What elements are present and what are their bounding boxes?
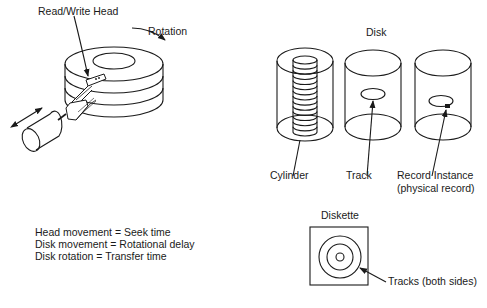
track-label: Track: [346, 169, 372, 181]
cylinder-platter-edge: [293, 96, 317, 100]
read-write-head-label: Read/Write Head: [38, 5, 118, 17]
spindle-hole: [93, 53, 135, 69]
cylinder-platter-edge: [293, 91, 317, 95]
cylinder-platter-edge: [293, 86, 317, 90]
cylinder-stack-top: [293, 56, 317, 64]
record-instance-sublabel: (physical record): [397, 182, 475, 194]
cylinder-platter-edge: [293, 127, 317, 131]
record-marker: [445, 104, 450, 108]
equation-seek-time: Head movement = Seek time: [35, 226, 171, 238]
cylinder-platter-edge: [293, 101, 317, 105]
cylinder-platter-edge: [293, 106, 317, 110]
platter-top: [65, 47, 163, 81]
read-write-head-pointer: [74, 16, 88, 76]
tracks-both-sides-label: Tracks (both sides): [388, 275, 477, 287]
cylinder-platter-edge: [293, 122, 317, 126]
cylinder-figure: [277, 48, 333, 141]
cylinder-platter-edge: [293, 75, 317, 79]
track-ellipse: [361, 89, 385, 100]
track-pointer: [367, 101, 373, 176]
cylinder-label: Cylinder: [270, 169, 309, 181]
disk-title: Disk: [366, 26, 386, 38]
cylinder-platter-edge: [293, 65, 317, 69]
record-instance-pointer: [432, 110, 446, 176]
equation-rotational-delay: Disk movement = Rotational delay: [35, 238, 195, 250]
diskette-figure: [310, 227, 368, 285]
tracks-pointer: [360, 268, 386, 282]
record-instance-label: Record Instance: [397, 169, 473, 181]
diskette-title: Diskette: [321, 209, 359, 221]
equation-transfer-time: Disk rotation = Transfer time: [35, 250, 167, 262]
track-figure: [345, 50, 401, 140]
read-write-head-block: [86, 74, 106, 86]
cylinder-platter-edge: [293, 132, 317, 136]
cylinder-platter-edge: [293, 81, 317, 85]
actuator-motor: [19, 111, 62, 154]
cylinder-platter-edge: [293, 117, 317, 121]
rotation-label: Rotation: [148, 25, 187, 37]
